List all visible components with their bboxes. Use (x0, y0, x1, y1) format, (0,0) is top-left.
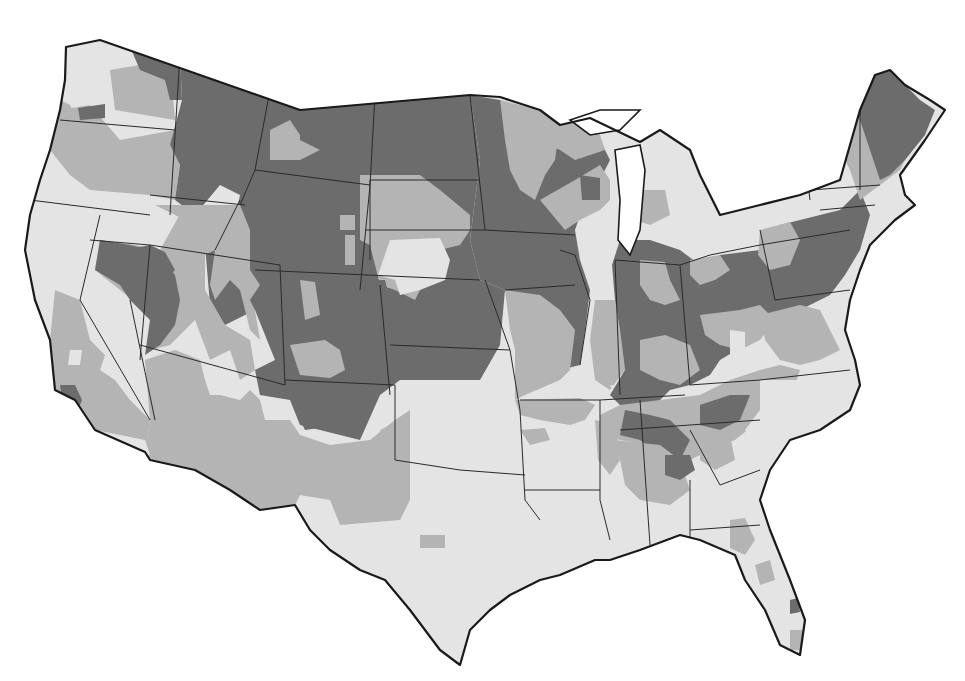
region-medium (420, 535, 445, 548)
region-dark (580, 175, 600, 200)
region-light (68, 350, 82, 365)
map-canvas (0, 0, 965, 681)
us-choropleth-map (0, 0, 965, 681)
region-medium (340, 215, 355, 230)
region-medium (345, 235, 355, 265)
state-border (835, 95, 840, 180)
state-border (800, 120, 810, 200)
region-light (730, 330, 745, 355)
